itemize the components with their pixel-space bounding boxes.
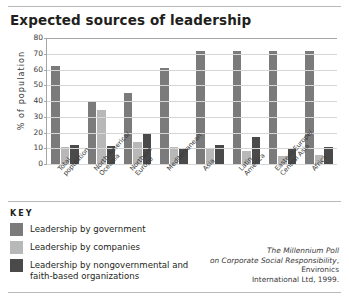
y-axis-tick-mark [44, 70, 47, 71]
legend-heading: KEY [10, 209, 205, 218]
legend-swatch-ngo [10, 259, 23, 272]
bar [196, 51, 205, 164]
plot-area: % of population 01020304050607080 Totalp… [0, 34, 349, 166]
legend-item-ngo: Leadership by nongovernmental and faith-… [10, 259, 205, 281]
gridline [47, 101, 337, 102]
y-axis-tick-label: 50 [21, 81, 43, 89]
y-axis-tick-mark [44, 54, 47, 55]
y-axis-tick-label: 0 [21, 160, 43, 168]
source-note: The Millennium Poll on Corporate Social … [179, 246, 339, 284]
y-axis-tick-label: 60 [21, 66, 43, 74]
divider-middle [8, 201, 341, 202]
legend-swatch-companies [10, 241, 23, 254]
source-line-2-italic: on Corporate Social Responsibility [210, 256, 337, 265]
gridline [47, 54, 337, 55]
bar [233, 51, 242, 164]
gridline [47, 38, 337, 39]
y-axis-tick-label: 80 [21, 34, 43, 42]
gridline [47, 133, 337, 134]
gridline [47, 70, 337, 71]
legend-item-government: Leadership by government [10, 223, 205, 236]
bar [51, 66, 60, 164]
y-axis-tick-mark [44, 148, 47, 149]
gridline [47, 117, 337, 118]
chart-page: Expected sources of leadership % of popu… [0, 0, 349, 306]
y-axis-tick-label: 30 [21, 113, 43, 121]
source-line-1: The Millennium Poll [267, 246, 339, 255]
bar [269, 51, 278, 164]
y-axis-tick-mark [44, 38, 47, 39]
legend-label-companies: Leadership by companies [30, 241, 140, 253]
divider-top [8, 6, 341, 7]
y-axis-tick-mark [44, 133, 47, 134]
y-axis-tick-label: 10 [21, 144, 43, 152]
gridline [47, 85, 337, 86]
legend: KEY Leadership by government Leadership … [10, 209, 205, 281]
divider-bottom [8, 292, 341, 293]
source-line-3: International Ltd, 1999. [252, 275, 339, 284]
y-axis-tick-mark [44, 101, 47, 102]
y-axis-tick-mark [44, 85, 47, 86]
y-axis-tick-label: 20 [21, 129, 43, 137]
y-axis-tick-mark [44, 117, 47, 118]
legend-item-companies: Leadership by companies [10, 241, 205, 254]
y-axis-tick-mark [44, 164, 47, 165]
legend-swatch-government [10, 223, 23, 236]
page-title: Expected sources of leadership [10, 12, 251, 28]
legend-label-government: Leadership by government [30, 223, 146, 235]
y-axis-tick-label: 70 [21, 50, 43, 58]
y-axis-tick-label: 40 [21, 97, 43, 105]
